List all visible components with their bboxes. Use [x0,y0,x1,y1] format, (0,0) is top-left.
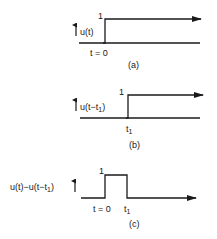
panel-c-time-label-sub: 1 [127,208,131,215]
panel-b-function-label-close: ) [102,102,105,112]
panel-a-waveform [76,19,201,43]
panel-c-function-label-close: ) [51,182,54,192]
panel-b-time-label: t1 [126,124,132,135]
panel-a-function-label: u(t) [80,27,94,37]
panel-c-pulse [81,175,196,198]
panel-c-amplitude-label: 1 [99,166,104,176]
panel-c-caption: (c) [129,219,140,229]
panel-a-step [103,19,201,43]
panel-b-amplitude-label: 1 [119,87,124,97]
panel-c-function-label-sub: 1 [47,186,51,193]
panel-b-function-label: u(t−t1) [80,102,105,113]
panel-c-function-label-main: u(t)−u(t−t [10,182,47,192]
panel-c-function-label: u(t)−u(t−t1) [10,182,54,193]
panel-b-function-label-main: u(t−t [80,102,98,112]
panel-b-time-label-sub: 1 [129,128,133,135]
panel-b-function-label-sub: 1 [98,106,102,113]
panel-b-step [126,95,203,118]
panel-a-amplitude-label: 1 [98,11,103,21]
panel-c-time-zero-label: t = 0 [93,204,111,214]
panel-a-caption: (a) [128,60,139,70]
panel-b-caption: (b) [129,140,140,150]
panel-a-time-label: t = 0 [90,48,108,58]
panel-c-time-label: t1 [124,204,130,215]
panel-c-waveform [75,175,196,198]
